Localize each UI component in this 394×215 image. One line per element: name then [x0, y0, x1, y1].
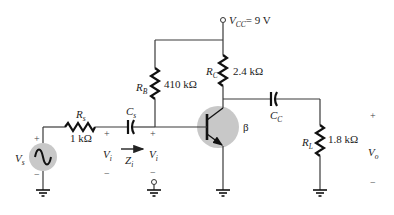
- resistor-rs: Rs 1 kΩ: [65, 108, 95, 144]
- beta-label: β: [243, 121, 249, 133]
- cs-subscript: s: [133, 111, 136, 120]
- resistor-rb: RB 410 kΩ: [135, 68, 197, 127]
- svg-text:Vi: Vi: [103, 148, 112, 163]
- rl-subscript: L: [308, 142, 313, 151]
- vcc-value: = 9 V: [246, 14, 271, 26]
- vs-plus: +: [34, 133, 40, 144]
- vi-right-subscript: i: [156, 154, 158, 163]
- rl-value: 1.8 kΩ: [328, 133, 358, 145]
- vs-subscript: s: [22, 158, 25, 167]
- vi-left-port: + Vi −: [103, 128, 112, 179]
- svg-text:Vo: Vo: [368, 146, 379, 161]
- resistor-rl: RL 1.8 kΩ: [301, 125, 358, 190]
- vi-left-subscript: i: [110, 154, 112, 163]
- svg-text:RC: RC: [205, 65, 219, 80]
- ground-load: [313, 190, 327, 196]
- svg-text:Cs: Cs: [126, 105, 136, 120]
- ground-input: [147, 190, 161, 196]
- rs-value: 1 kΩ: [70, 132, 92, 144]
- capacitor-cs: Cs: [126, 105, 136, 134]
- capacitor-cc: CC: [270, 92, 283, 124]
- vi-left-minus: −: [104, 168, 110, 179]
- vo-plus: +: [370, 110, 376, 121]
- svg-text:Vi: Vi: [149, 148, 158, 163]
- vo-port: + Vo −: [368, 110, 379, 188]
- svg-text:Vs: Vs: [15, 152, 25, 167]
- rb-value: 410 kΩ: [164, 78, 197, 90]
- svg-text:VCC= 9 V: VCC= 9 V: [229, 14, 271, 29]
- vcc-terminal: VCC= 9 V: [221, 14, 271, 29]
- svg-text:Zi: Zi: [125, 154, 133, 169]
- cc-subscript: C: [277, 115, 283, 124]
- ac-source: + − Vs: [15, 133, 57, 180]
- svg-text:RB: RB: [135, 81, 148, 96]
- vi-right-plus: +: [150, 128, 156, 139]
- ground-emitter: [216, 190, 230, 196]
- top-wires: [155, 23, 223, 68]
- rs-subscript: s: [83, 114, 86, 123]
- zi-indicator: Zi: [121, 149, 143, 169]
- transistor: β: [155, 99, 249, 190]
- vi-right-port: + Vi −: [149, 128, 158, 190]
- rb-subscript: B: [143, 87, 148, 96]
- input-wires: [43, 127, 155, 190]
- svg-text:RL: RL: [301, 136, 313, 151]
- circuit-diagram: VCC= 9 V RB 410 kΩ RC 2.4 kΩ CC RL 1.8 k…: [0, 0, 394, 215]
- svg-text:Rs: Rs: [75, 108, 86, 123]
- rc-subscript: C: [213, 71, 219, 80]
- vi-right-minus: −: [150, 167, 156, 178]
- rc-value: 2.4 kΩ: [233, 65, 263, 77]
- vs-minus: −: [34, 169, 40, 180]
- zi-subscript: i: [131, 160, 133, 169]
- vo-subscript: o: [375, 152, 379, 161]
- vo-minus: −: [370, 177, 376, 188]
- vi-left-plus: +: [104, 128, 110, 139]
- svg-text:CC: CC: [270, 109, 283, 124]
- ground-source: [36, 190, 50, 196]
- resistor-rc: RC 2.4 kΩ: [205, 55, 263, 99]
